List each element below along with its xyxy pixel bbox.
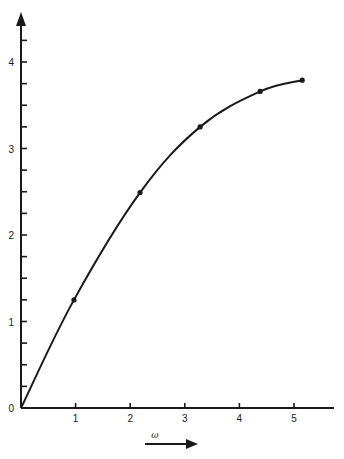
x-tick-label: 4 — [237, 413, 243, 424]
data-points — [71, 78, 304, 303]
x-tick-label: 2 — [127, 413, 133, 424]
y-tick-label: 4 — [8, 57, 14, 68]
x-tick-label: 5 — [291, 413, 297, 424]
data-point — [258, 89, 263, 94]
x-axis-label-text: ω — [151, 430, 159, 440]
data-point — [71, 297, 76, 302]
data-curve — [21, 80, 302, 408]
x-tick-label: 3 — [182, 413, 188, 424]
x-tick-label: 1 — [73, 413, 79, 424]
line-chart: 01234 12345 ω — [0, 0, 344, 459]
y-tick-label: 1 — [8, 317, 14, 328]
y-tick-label: 3 — [8, 144, 14, 155]
y-tick-label: 2 — [8, 230, 14, 241]
y-tick-label: 0 — [8, 403, 14, 414]
data-point — [137, 190, 142, 195]
x-axis-label: ω — [145, 430, 198, 449]
data-point — [197, 124, 202, 129]
y-axis-arrow-icon — [16, 12, 26, 26]
x-axis: 12345 — [21, 403, 334, 424]
y-axis: 01234 — [8, 12, 27, 414]
curve-path — [21, 80, 302, 408]
data-point — [300, 78, 305, 83]
x-direction-arrow-icon — [186, 439, 198, 449]
